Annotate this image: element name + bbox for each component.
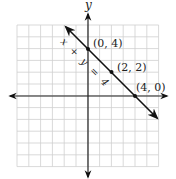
coordinate-plane: y (0, 4) (2, 2) (4, 0) x + y = 4 bbox=[0, 0, 176, 179]
point-label-2-2: (2, 2) bbox=[117, 61, 147, 74]
point-2-2 bbox=[110, 70, 114, 74]
y-axis-label: y bbox=[84, 0, 92, 12]
point-label-0-4: (0, 4) bbox=[93, 37, 123, 50]
point-4-0 bbox=[133, 94, 137, 98]
point-label-4-0: (4, 0) bbox=[136, 81, 166, 94]
point-0-4 bbox=[86, 47, 90, 51]
